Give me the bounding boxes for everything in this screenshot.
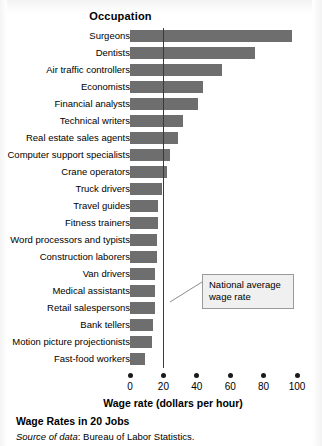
bar-category-label: Fast-food workers [0,352,130,365]
bar [130,166,167,178]
x-axis-tick-dot [194,373,199,378]
chart-row: Construction laborers [0,249,322,266]
x-axis-tick-dot [128,373,133,378]
chart-row: Dentists [0,45,322,62]
x-axis-tick-dot [161,373,166,378]
x-axis-tick-dot [228,373,233,378]
bar [130,319,153,331]
national-average-reference-line [163,28,165,368]
bar-category-label: Retail salespersons [0,301,130,314]
chart-row: Truck drivers [0,181,322,198]
bar [130,285,155,297]
bar-category-label: Financial analysts [0,97,130,110]
bar-category-label: Crane operators [0,165,130,178]
bar-category-label: Computer support specialists [0,148,130,161]
chart-plot-area: SurgeonsDentistsAir traffic controllersE… [0,28,322,373]
national-average-callout: National average wage rate [202,274,294,309]
bar [130,81,203,93]
bar-category-label: Medical assistants [0,284,130,297]
chart-row: Real estate sales agents [0,130,322,147]
callout-line-1: National average [209,279,288,291]
source-text: : Bureau of Labor Statistics. [78,431,195,442]
x-axis-tick-dot [295,373,300,378]
bar-category-label: Fitness trainers [0,216,130,229]
bar [130,251,157,263]
bar [130,353,145,365]
bar [130,98,198,110]
bar [130,132,178,144]
bar [130,268,155,280]
x-axis-tick-dot [261,373,266,378]
chart-row: Fast-food workers [0,351,322,368]
chart-row: Word processors and typists [0,232,322,249]
bar-category-label: Surgeons [0,29,130,42]
bar-category-label: Truck drivers [0,182,130,195]
chart-row: Travel guides [0,198,322,215]
bar [130,64,222,76]
bar-category-label: Motion picture projectionists [0,335,130,348]
figure-caption-title: Wage Rates in 20 Jobs [16,415,316,427]
bar-category-label: Construction laborers [0,250,130,263]
chart-row: Motion picture projectionists [0,334,322,351]
bar [130,234,157,246]
chart-row: Technical writers [0,113,322,130]
bar-category-label: Technical writers [0,114,130,127]
bar [130,30,292,42]
bar [130,302,155,314]
bar [130,183,162,195]
chart-row: Surgeons [0,28,322,45]
source-label: Source of data [16,431,78,442]
bar-category-label: Van drivers [0,267,130,280]
chart-row: Financial analysts [0,96,322,113]
chart-row: Fitness trainers [0,215,322,232]
bar [130,336,152,348]
bar-category-label: Economists [0,80,130,93]
bar-category-label: Dentists [0,46,130,59]
occupation-column-header: Occupation [58,10,183,22]
figure-source: Source of data: Bureau of Labor Statisti… [16,431,316,442]
chart-row: Bank tellers [0,317,322,334]
bar-category-label: Travel guides [0,199,130,212]
bar-category-label: Word processors and typists [0,233,130,246]
bar [130,200,158,212]
bar [130,115,183,127]
bar-category-label: Bank tellers [0,318,130,331]
bar-category-label: Real estate sales agents [0,131,130,144]
chart-row: Crane operators [0,164,322,181]
chart-row: Computer support specialists [0,147,322,164]
chart-row: Economists [0,79,322,96]
bar [130,47,255,59]
callout-line-2: wage rate [209,291,288,303]
x-axis-tick-label: 100 [277,381,317,392]
x-axis-label: Wage rate (dollars per hour) [0,397,322,409]
chart-row: Air traffic controllers [0,62,322,79]
wage-rates-bar-chart-figure: Occupation SurgeonsDentistsAir traffic c… [0,0,322,446]
bar-category-label: Air traffic controllers [0,63,130,76]
bar [130,217,158,229]
